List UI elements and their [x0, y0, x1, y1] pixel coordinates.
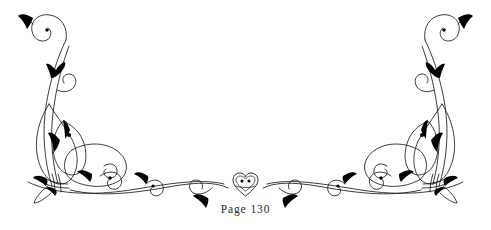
page-number-label: Page 130 [0, 203, 491, 215]
left-swag-lower [70, 183, 228, 194]
center-heart-medallion [233, 173, 258, 196]
ornament-right-leaves [283, 14, 473, 208]
right-leaf-petal-a [431, 132, 443, 152]
left-dot-swag [108, 176, 111, 179]
floral-flourish-ornament [0, 0, 491, 230]
left-leaf-knot-a [33, 176, 48, 186]
right-scroll-spiral [374, 164, 387, 178]
left-dot-swag-2 [151, 184, 154, 187]
right-dot-swag [379, 176, 382, 179]
left-scroll-lobe [65, 144, 127, 186]
right-scroll-lobe [365, 144, 427, 186]
right-leaf-lobe [399, 170, 414, 182]
center-heart-inner [236, 176, 255, 191]
left-leaf-lobe [77, 170, 92, 182]
right-dot-top [442, 28, 445, 31]
center-dot-left [241, 180, 244, 183]
ornament-right-half [263, 15, 470, 203]
left-leaf-petal-a [48, 132, 60, 152]
right-leaf-top [458, 14, 473, 29]
right-upper-curl [425, 15, 460, 41]
right-dot-swag-2 [336, 184, 339, 187]
left-leaf-swag-a [134, 172, 148, 184]
center-heart-base-line [236, 186, 255, 188]
right-leaf-knot-a [444, 176, 459, 186]
center-heart-outer [233, 173, 258, 196]
right-swag-lower [263, 183, 421, 194]
left-leaf-top [18, 14, 33, 29]
left-dot-top [45, 28, 48, 31]
center-dot-right [248, 180, 251, 183]
right-leaf-swag-a [343, 172, 357, 184]
book-page: Page 130 [0, 0, 491, 230]
ornament-left-half [21, 15, 228, 203]
left-upper-curl [32, 15, 67, 41]
left-scroll-spiral [104, 164, 117, 178]
ornament-left-leaves [18, 14, 208, 208]
